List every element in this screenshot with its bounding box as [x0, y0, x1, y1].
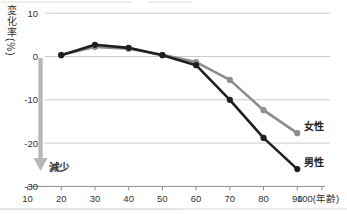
x-tick-label: 40 — [123, 193, 134, 204]
series-female-marker — [260, 107, 266, 113]
series-male-marker — [92, 42, 98, 48]
y-tick-label: 0 — [33, 51, 38, 62]
y-tick-label: -30 — [24, 181, 38, 192]
series-male-marker — [294, 166, 300, 172]
decrease-annotation-label: 減少 — [49, 161, 70, 173]
line-chart: 102030405060708090100(年齢)100-10-20-30減少女… — [0, 0, 347, 214]
series-female-marker — [294, 130, 300, 136]
x-tick-label: 10 — [22, 193, 33, 204]
y-tick-label: 10 — [27, 8, 38, 19]
series-male-marker — [260, 135, 266, 141]
series-female-label: 女性 — [304, 120, 324, 132]
y-tick-label: -20 — [24, 138, 38, 149]
decrease-arrow-shaft — [38, 58, 42, 158]
series-male-marker — [193, 62, 199, 68]
x-tick-label: 30 — [90, 193, 101, 204]
x-tick-label: 20 — [56, 193, 67, 204]
y-tick-label: -10 — [24, 94, 38, 105]
series-male-marker — [159, 52, 165, 58]
series-male-marker — [58, 52, 64, 58]
x-tick-label: 60 — [191, 193, 202, 204]
series-male-marker — [227, 97, 233, 103]
x-tick-label: 80 — [258, 193, 269, 204]
series-male-marker — [126, 45, 132, 51]
series-female-marker — [227, 77, 233, 83]
x-tick-label: 70 — [225, 193, 236, 204]
decrease-arrow-head — [34, 158, 48, 171]
chart-container: 変化率(%) 102030405060708090100(年齢)100-10-2… — [0, 0, 347, 214]
x-tick-label: 100(年齢) — [297, 193, 339, 204]
x-tick-label: 50 — [157, 193, 168, 204]
series-male-label: 男性 — [304, 156, 324, 168]
